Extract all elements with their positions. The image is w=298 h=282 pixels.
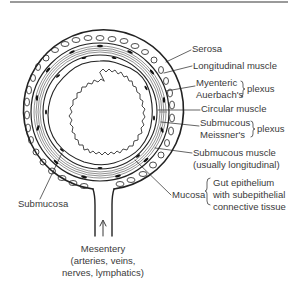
label-mucosa-desc-2: with subepithelial [213,189,285,200]
label-submucous-muscle: Submucous muscle [193,147,276,158]
label-myenteric: Myenteric [196,77,237,88]
label-plexus-submucous: plexus [257,123,284,134]
label-mucosa: Mucosa [172,189,205,200]
label-circular-muscle: Circular muscle [201,103,266,114]
mesentery-stalk-right [112,189,114,236]
label-submucous-muscle-note: (usually longitudinal) [193,159,280,170]
label-mucosa-desc-3: connective tissue [213,201,286,212]
submucosa-boundary [48,61,152,165]
label-serosa: Serosa [192,43,222,54]
label-mucosa-desc-1: Gut epithelium [213,177,274,188]
label-mesentery: Mesentery [53,243,153,254]
mucosa-brace [205,178,210,205]
label-meissners: Meissner's [200,129,245,140]
label-longitudinal-muscle: Longitudinal muscle [193,60,277,71]
muscle-nuclei [36,45,165,179]
label-plexus-myenteric: plexus [247,83,274,94]
label-submucosa: Submucosa [18,198,68,209]
label-submucous: Submucous [200,117,250,128]
mesentery-stalk-left [93,189,95,236]
longitudinal-muscle-ring [31,43,169,181]
gut-cross-section-diagram [0,0,298,282]
label-mesentery-desc-1: (arteries, veins, [53,255,153,266]
label-mesentery-desc-2: nerves, lymphatics) [53,267,153,278]
label-auerbachs: Auerbach's [196,89,243,100]
plexus-brace-2 [251,121,255,137]
mucosa-villi [69,69,145,155]
